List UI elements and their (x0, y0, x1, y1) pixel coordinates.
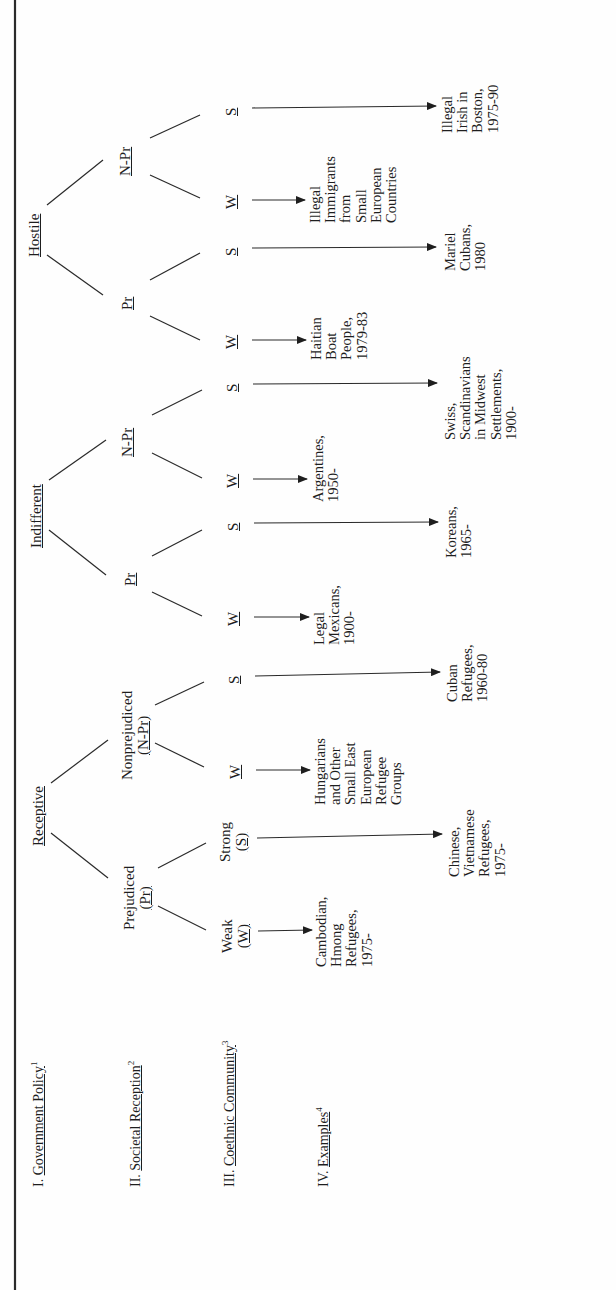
example-line: Irish in (455, 85, 470, 133)
example-receptive-pr-s: Chinese, Vietnamese Refugees, 1975- (447, 809, 508, 877)
community-receptive-npr-w: W (228, 765, 244, 779)
example-line: 1975- (493, 809, 508, 877)
example-line: 1975-90 (486, 85, 501, 133)
label: W (224, 474, 240, 488)
example-line: 1965- (459, 506, 474, 558)
label-line: Nonprejudiced (120, 691, 136, 780)
example-indifferent-npr-s: Swiss, Scandinavians in Midwest Settleme… (443, 356, 519, 440)
reception-receptive-pr: Prejudiced (Pr) (122, 866, 154, 930)
label: W (223, 195, 239, 209)
label: S (223, 108, 239, 116)
label-line: Weak (220, 919, 236, 953)
example-line: 1900- (342, 585, 357, 645)
label: W (227, 765, 243, 779)
example-line: Hmong (329, 897, 344, 967)
example-line: Refugees, (460, 644, 475, 702)
example-line: in Midwest (473, 356, 488, 440)
label: S (225, 523, 241, 531)
row-header-coethnic-community: III. Coethnic Community3 (221, 1041, 237, 1187)
example-line: Illegal (308, 156, 323, 223)
reception-indifferent-pr: Pr (123, 573, 139, 586)
community-hostile-pr-s: S (224, 248, 240, 256)
example-line: Settlements, (489, 356, 504, 440)
label: S (224, 384, 240, 392)
example-line: 1900- (504, 356, 519, 440)
example-line: Countries (384, 156, 399, 223)
community-hostile-npr-s: S (224, 108, 240, 116)
community-receptive-pr-weak: Weak (W) (220, 919, 252, 953)
community-indifferent-pr-w: W (226, 612, 242, 626)
example-line: Small (354, 156, 369, 223)
example-line: 1980 (473, 224, 488, 271)
label: Indifferent (28, 484, 44, 548)
example-line: from (338, 156, 353, 223)
label-line: (N-Pr) (136, 691, 152, 780)
example-line: Mariel (443, 224, 458, 271)
example-line: Hungarians (313, 738, 328, 805)
community-hostile-npr-w: W (224, 195, 240, 209)
example-line: Groups (389, 738, 404, 805)
label: S (226, 676, 242, 684)
example-line: European (369, 156, 384, 223)
reception-hostile-pr: Pr (120, 297, 136, 310)
row-header-examples: IV. Examples4 (315, 1107, 331, 1187)
example-line: Cuban (445, 644, 460, 702)
label: Government Policy (31, 1066, 46, 1175)
example-line: Cubans, (458, 224, 473, 271)
policy-hostile: Hostile (27, 214, 43, 257)
numeral: III. (222, 1170, 237, 1188)
label: Societal Reception (128, 1065, 143, 1170)
community-indifferent-npr-s: S (225, 384, 241, 392)
label: W (223, 335, 239, 349)
label-line: (S) (234, 822, 250, 862)
policy-receptive: Receptive (31, 786, 47, 846)
label-line: Strong (218, 822, 234, 862)
label-line: Prejudiced (122, 866, 138, 930)
example-line: Vietnamese (462, 809, 477, 877)
example-receptive-npr-s: Cuban Refugees, 1960-80 (445, 644, 491, 702)
example-line: 1975- (360, 897, 375, 967)
policy-indifferent: Indifferent (29, 484, 45, 548)
footnote-marker: 1 (29, 1062, 39, 1067)
numeral: I. (31, 1179, 46, 1187)
example-indifferent-pr-w: Legal Mexicans, 1900- (312, 585, 358, 645)
label: Pr (119, 297, 135, 310)
example-line: European (359, 738, 374, 805)
community-indifferent-pr-s: S (226, 523, 242, 531)
example-line: 1979-83 (355, 312, 370, 360)
example-hostile-pr-s: Mariel Cubans, 1980 (443, 224, 489, 271)
example-receptive-pr-w: Cambodian, Hmong Refugees, 1975- (314, 897, 375, 967)
label-line: (Pr) (138, 866, 154, 930)
example-indifferent-npr-w: Argentines, 1950- (311, 435, 341, 502)
row-header-government-policy: I. Government Policy1 (30, 1062, 46, 1187)
example-hostile-npr-w: Illegal Immigrants from Small European C… (308, 156, 399, 223)
example-line: Chinese, (447, 809, 462, 877)
example-receptive-npr-w: Hungarians and Other Small East European… (313, 738, 404, 805)
example-line: Boston, (470, 85, 485, 133)
reception-receptive-npr: Nonprejudiced (N-Pr) (120, 691, 152, 780)
reception-indifferent-npr: N-Pr (120, 428, 136, 457)
label-line: (W) (236, 919, 252, 953)
example-line: Small East (343, 738, 358, 805)
label: Coethnic Community (222, 1045, 237, 1166)
example-hostile-pr-w: Haitian Boat People, 1979-83 (309, 312, 370, 360)
example-line: People, (339, 312, 354, 360)
label: Hostile (26, 214, 42, 257)
example-line: Illegal (440, 85, 455, 133)
example-line: Refugees, (477, 809, 492, 877)
example-line: Mexicans, (327, 585, 342, 645)
community-hostile-pr-w: W (224, 335, 240, 349)
example-line: Koreans, (444, 506, 459, 558)
community-receptive-pr-strong: Strong (S) (218, 822, 250, 862)
example-line: Scandinavians (458, 356, 473, 440)
example-line: Refugee (374, 738, 389, 805)
label: Pr (122, 573, 138, 586)
example-line: Refugees, (344, 897, 359, 967)
numeral: II. (128, 1174, 143, 1187)
example-line: 1960-80 (475, 644, 490, 702)
footnote-marker: 2 (126, 1061, 136, 1066)
label: N-Pr (119, 428, 135, 457)
footnote-marker: 4 (314, 1107, 324, 1112)
label: Examples (316, 1112, 331, 1167)
label: Receptive (30, 786, 46, 846)
